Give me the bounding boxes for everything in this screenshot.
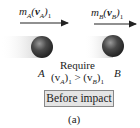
ball-b	[102, 35, 124, 57]
ball-a-label: A	[38, 67, 45, 79]
require-text: Require	[60, 59, 95, 71]
velocity-condition: (vA)1 > (vB)1	[51, 71, 104, 86]
figure-caption: (a)	[68, 113, 80, 125]
momentum-b-label: mB(vB)1	[91, 6, 123, 21]
ball-a	[31, 36, 53, 58]
stage-label-box: Before impact	[44, 90, 114, 107]
ball-b-label: B	[114, 67, 121, 79]
momentum-a-label: mA(vA)1	[19, 5, 51, 20]
